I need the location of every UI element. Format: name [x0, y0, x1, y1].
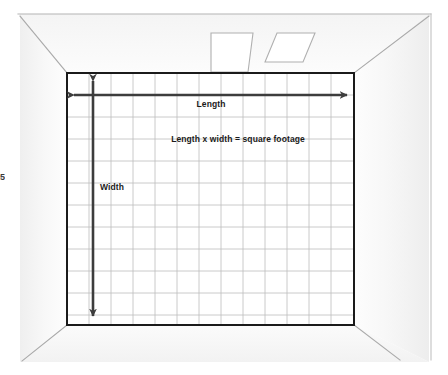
- floor-grid: [67, 73, 354, 325]
- right-wall: [354, 14, 429, 362]
- skylight-left-icon: [211, 33, 253, 72]
- dimension-arrows: [74, 81, 347, 316]
- length-label: Length: [197, 99, 226, 109]
- room-illustration-svg: [0, 0, 448, 375]
- room-square-footage-diagram: Length Length x width = square footage W…: [0, 0, 448, 375]
- floor-border: [67, 73, 354, 325]
- page-number-fragment: 5: [0, 170, 5, 184]
- formula-label: Length x width = square footage: [171, 134, 305, 144]
- width-label: Width: [100, 182, 124, 192]
- left-wall: [20, 14, 67, 362]
